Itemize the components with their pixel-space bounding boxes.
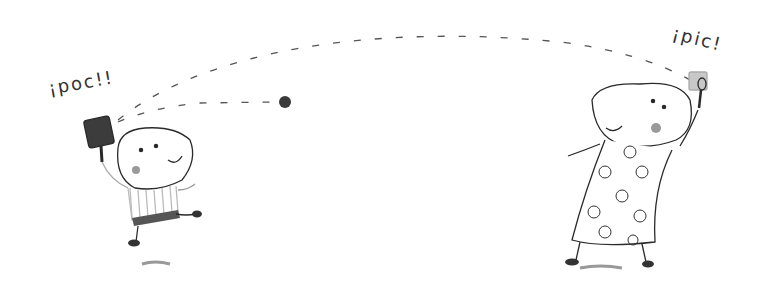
dark-paddle-icon — [83, 116, 114, 162]
drawing — [0, 0, 779, 298]
ball — [279, 96, 291, 108]
ball-trajectory-low — [118, 102, 275, 122]
right-character — [565, 72, 707, 268]
light-paddle-icon — [689, 72, 707, 108]
left-character — [83, 116, 202, 264]
illustration-canvas: ¡poc!! ¡pic! — [0, 0, 779, 298]
